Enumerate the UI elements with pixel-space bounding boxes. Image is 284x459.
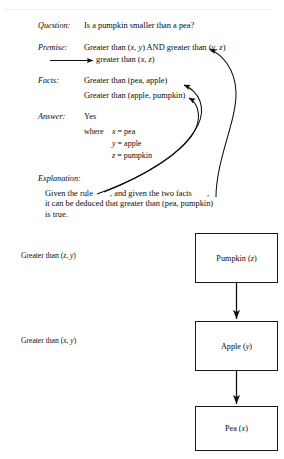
binding-eq-y: = <box>118 139 123 148</box>
binding-eq-z: = <box>117 151 122 160</box>
curve-premise-to-explanation <box>210 49 236 197</box>
explanation-line-1-part-b: , and given the two facts <box>110 190 192 198</box>
premise-l2-seg-a: greater than ( <box>96 55 141 64</box>
answer-binding-x: x = pea <box>112 128 135 136</box>
premise-line-1: Greater than (x, y) AND greater than (y,… <box>84 44 225 52</box>
edge-label-zy: Greater than (z, y) <box>21 252 76 260</box>
explanation-line-2: it can be deduced that greater than (pea… <box>45 200 213 208</box>
edge-label-zy-prefix: Greater than ( <box>21 251 63 260</box>
edge-label-xy-suffix: ) <box>74 336 77 345</box>
arrows-overlay <box>0 0 284 459</box>
premise-l1-seg-a: Greater than ( <box>84 43 131 52</box>
answer-binding-z: z = pumpkin <box>112 152 152 160</box>
node-apple-close: ) <box>249 342 252 351</box>
answer-label: Answer: <box>38 113 65 121</box>
node-pumpkin-close: ) <box>254 254 257 263</box>
node-pumpkin-name: Pumpkin ( <box>216 254 250 263</box>
question-label: Question: <box>38 22 70 30</box>
node-pea-name: Pea ( <box>225 424 242 433</box>
fact-item-1: Greater than (pea, apple) <box>84 77 167 85</box>
figure-page: Question: Is a pumpkin smaller than a pe… <box>0 0 284 459</box>
node-pumpkin: Pumpkin (z) <box>195 233 278 283</box>
premise-label: Premise: <box>38 44 67 52</box>
fact-item-2: Greater than (apple, pumpkin) <box>84 92 185 100</box>
node-apple-name: Apple ( <box>221 342 246 351</box>
explanation-line-3: is true. <box>45 211 68 219</box>
node-apple: Apple (y) <box>195 321 278 371</box>
explanation-line-1-part-c: , <box>207 190 209 198</box>
answer-value: Yes <box>84 113 96 121</box>
explanation-label: Explanation: <box>38 175 81 183</box>
node-apple-label: Apple (y) <box>221 342 252 351</box>
binding-var-x: x <box>112 127 116 136</box>
binding-val-x: pea <box>124 127 135 136</box>
explanation-line-1-part-a: Given the rule <box>45 190 93 198</box>
premise-l1-seg-e: ) <box>223 43 226 52</box>
binding-val-y: apple <box>124 139 141 148</box>
premise-line-2: greater than (x, z) <box>96 56 155 64</box>
premise-l2-seg-c: ) <box>152 55 155 64</box>
scan-artifact-rule <box>4 9 272 10</box>
node-pea-close: ) <box>245 424 248 433</box>
node-pea-label: Pea (x) <box>225 424 248 433</box>
edge-label-xy-prefix: Greater than ( <box>21 336 63 345</box>
answer-where-keyword: where <box>84 128 104 136</box>
answer-binding-y: y = apple <box>112 140 141 148</box>
edge-label-zy-suffix: ) <box>73 251 76 260</box>
facts-label: Facts: <box>38 77 59 85</box>
node-pumpkin-label: Pumpkin (z) <box>216 254 256 263</box>
node-pea: Pea (x) <box>195 406 278 451</box>
binding-var-y: y <box>112 139 116 148</box>
binding-var-z: z <box>112 151 115 160</box>
binding-eq-x: = <box>118 127 123 136</box>
binding-val-z: pumpkin <box>124 151 152 160</box>
premise-l1-seg-c: ) AND greater than ( <box>142 43 211 52</box>
question-text: Is a pumpkin smaller than a pea? <box>84 22 194 30</box>
edge-label-xy: Greater than (x, y) <box>21 337 76 345</box>
